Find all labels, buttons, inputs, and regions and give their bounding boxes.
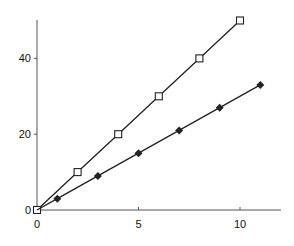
open-square-marker-icon (74, 169, 81, 176)
filled-diamond-marker-icon (256, 81, 264, 89)
filled-diamond-marker-icon (175, 126, 183, 134)
filled-diamond-marker-icon (135, 149, 143, 157)
filled-diamond-series (37, 81, 264, 210)
plot-area (34, 17, 265, 214)
open-square-marker-icon (155, 93, 162, 100)
series-line (37, 85, 260, 210)
open-square-marker-icon (237, 17, 244, 24)
y-tick-label: 40 (19, 52, 31, 64)
series-line (37, 21, 240, 211)
filled-diamond-marker-icon (216, 104, 224, 112)
y-tick-label: 0 (25, 204, 31, 216)
filled-diamond-marker-icon (94, 172, 102, 180)
open-square-series (34, 17, 244, 214)
y-tick-label: 20 (19, 128, 31, 140)
open-square-marker-icon (196, 55, 203, 62)
x-tick-label: 0 (34, 218, 40, 230)
line-chart: 020400510 (0, 0, 294, 246)
x-tick-label: 10 (234, 218, 246, 230)
filled-diamond-marker-icon (53, 195, 61, 203)
x-tick-label: 5 (135, 218, 141, 230)
open-square-marker-icon (115, 131, 122, 138)
